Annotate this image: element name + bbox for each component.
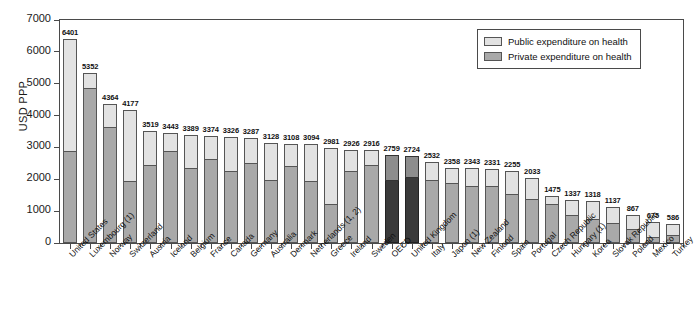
bar-segment-public[interactable]: [606, 207, 620, 224]
bar-segment-public[interactable]: [545, 196, 559, 204]
bar-segment-public[interactable]: [465, 168, 479, 187]
bar-segment-public[interactable]: [344, 150, 358, 172]
bar-value-label: 3326: [223, 126, 239, 135]
bar-value-label: 586: [667, 213, 679, 222]
legend-label-private: Private expenditure on health: [508, 51, 632, 62]
bar-stack: [344, 150, 358, 243]
bar-value-label: 2033: [524, 167, 540, 176]
bar-segment-private[interactable]: [244, 163, 258, 243]
bar-segment-public[interactable]: [244, 138, 258, 164]
bar-value-label: 1337: [564, 189, 580, 198]
bar-segment-public[interactable]: [525, 178, 539, 200]
bar-segment-private[interactable]: [184, 168, 198, 243]
y-tick-label: 2000: [27, 171, 51, 183]
bar-value-label: 867: [627, 204, 639, 213]
bar-sweden[interactable]: 2916: [364, 150, 378, 243]
bar-united-kingdom[interactable]: 2724: [405, 156, 419, 243]
bar-segment-public[interactable]: [505, 171, 519, 194]
bar-stack: [184, 135, 198, 243]
bar-segment-public[interactable]: [284, 144, 298, 167]
bar-value-label: 1137: [605, 196, 621, 205]
bar-stack: [385, 155, 399, 243]
bar-segment-public[interactable]: [123, 110, 137, 182]
bar-segment-public[interactable]: [103, 104, 117, 128]
bar-germany[interactable]: 3287: [244, 138, 258, 243]
bar-united-states[interactable]: 6401: [63, 39, 77, 243]
legend-item-private: Private expenditure on health: [484, 50, 632, 63]
bar-value-label: 3389: [182, 124, 198, 133]
y-tick-mark: [54, 179, 59, 180]
bar-value-label: 2255: [504, 160, 520, 169]
bar-segment-public[interactable]: [364, 150, 378, 166]
bar-value-label: 2358: [444, 157, 460, 166]
bar-value-label: 3374: [203, 125, 219, 134]
bar-oecd[interactable]: 2759: [385, 155, 399, 243]
bar-segment-private[interactable]: [525, 199, 539, 243]
bar-value-label: 3094: [303, 133, 319, 142]
bar-segment-private[interactable]: [405, 177, 419, 243]
bar-stack: [204, 136, 218, 243]
legend-label-public: Public expenditure on health: [508, 36, 628, 47]
y-tick-mark: [54, 83, 59, 84]
bar-stack: [163, 133, 177, 243]
bar-value-label: 2331: [484, 158, 500, 167]
bar-segment-public[interactable]: [445, 168, 459, 184]
legend-item-public: Public expenditure on health: [484, 35, 632, 48]
bar-stack: [364, 150, 378, 243]
bar-value-label: 2724: [404, 145, 420, 154]
bar-ireland[interactable]: 2926: [344, 150, 358, 243]
bar-segment-public[interactable]: [264, 143, 278, 181]
legend: Public expenditure on health Private exp…: [477, 29, 641, 69]
bar-segment-public[interactable]: [143, 131, 157, 166]
y-tick-label: 3000: [27, 139, 51, 151]
bar-value-label: 6401: [62, 28, 78, 37]
bar-segment-private[interactable]: [83, 88, 97, 243]
bar-segment-public[interactable]: [405, 156, 419, 178]
bar-belgium[interactable]: 3389: [184, 135, 198, 243]
y-tick-mark: [54, 147, 59, 148]
bar-segment-private[interactable]: [204, 159, 218, 243]
bar-value-label: 2926: [343, 139, 359, 148]
bar-segment-public[interactable]: [304, 144, 318, 181]
y-tick-mark: [54, 115, 59, 116]
bar-iceland[interactable]: 3443: [163, 133, 177, 243]
bar-stack: [525, 178, 539, 243]
y-tick-label: 1000: [27, 203, 51, 215]
y-tick-mark: [54, 243, 59, 244]
bar-segment-private[interactable]: [63, 151, 77, 243]
bar-france[interactable]: 3374: [204, 136, 218, 243]
bar-value-label: 2916: [363, 139, 379, 148]
y-tick-mark: [54, 51, 59, 52]
bar-luxembourg-1[interactable]: 5352: [83, 73, 97, 243]
y-tick-label: 6000: [27, 44, 51, 56]
bar-segment-public[interactable]: [565, 200, 579, 216]
bar-segment-public[interactable]: [163, 133, 177, 152]
bar-segment-private[interactable]: [364, 165, 378, 243]
bar-canada[interactable]: 3326: [224, 137, 238, 243]
bar-segment-public[interactable]: [224, 137, 238, 172]
bar-segment-public[interactable]: [184, 135, 198, 169]
bar-portugal[interactable]: 2033: [525, 178, 539, 243]
y-tick-label: 7000: [27, 12, 51, 24]
bar-segment-public[interactable]: [485, 169, 499, 187]
bar-japan-1[interactable]: 2358: [445, 168, 459, 243]
y-tick-label: 4000: [27, 108, 51, 120]
bar-value-label: 3443: [162, 122, 178, 131]
bar-value-label: 3287: [243, 127, 259, 136]
bar-value-label: 4364: [102, 93, 118, 102]
bar-value-label: 3108: [283, 133, 299, 142]
bar-segment-public[interactable]: [83, 73, 97, 90]
bar-value-label: 1318: [584, 190, 600, 199]
bar-value-label: 3128: [263, 132, 279, 141]
bar-segment-public[interactable]: [425, 162, 439, 181]
y-tick-mark: [54, 20, 59, 21]
bar-value-label: 2343: [464, 157, 480, 166]
bar-segment-public[interactable]: [63, 39, 77, 152]
bar-segment-public[interactable]: [385, 155, 399, 181]
bar-stack: [445, 168, 459, 243]
bar-segment-private[interactable]: [163, 151, 177, 243]
bar-stack: [405, 156, 419, 243]
bar-segment-public[interactable]: [324, 148, 338, 204]
bar-segment-public[interactable]: [204, 136, 218, 160]
bar-value-label: 4177: [122, 99, 138, 108]
